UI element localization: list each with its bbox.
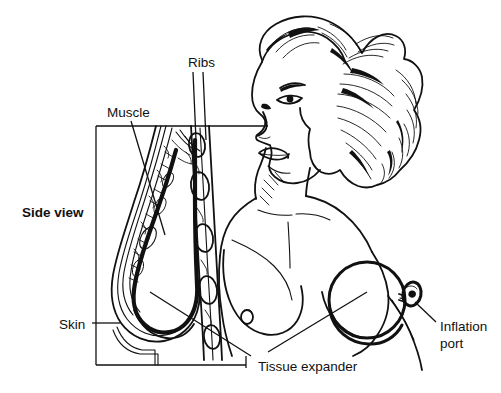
shoulder-left-contour xyxy=(220,198,256,256)
leader-tissue-expander xyxy=(268,292,367,352)
pupil xyxy=(287,96,294,103)
shoulder-right-contour xyxy=(306,196,372,252)
leader-inflation-port xyxy=(415,302,436,322)
label-tissue-expander: Tissue expander xyxy=(258,359,358,374)
leader-ribs-2 xyxy=(203,72,206,140)
skin-outer-contour xyxy=(112,126,200,342)
clavicle-left xyxy=(258,210,292,215)
face-profile xyxy=(252,62,320,183)
clavicle-right xyxy=(296,214,330,220)
eye xyxy=(277,96,302,104)
breast-right-upper-curve xyxy=(232,240,292,300)
leader-ribs-1 xyxy=(193,72,196,140)
medical-illustration-figure: Side view Ribs Muscle Skin Tissue expand… xyxy=(0,0,501,393)
neck-shading xyxy=(260,172,283,205)
front-view-figure xyxy=(219,16,423,370)
rib-oval-2 xyxy=(189,171,211,201)
neck-right xyxy=(306,168,310,196)
hair-strands-top xyxy=(272,24,394,64)
sternum-line xyxy=(288,222,290,268)
label-side-view: Side view xyxy=(22,205,84,220)
label-inflation-port-line1: Inflation xyxy=(440,319,487,334)
hairline xyxy=(262,32,345,62)
illustration-canvas: Side view Ribs Muscle Skin Tissue expand… xyxy=(0,0,501,393)
label-inflation-port-line2: port xyxy=(440,336,464,351)
label-ribs: Ribs xyxy=(188,55,215,70)
leader-muscle xyxy=(131,121,165,235)
side-view-anatomy xyxy=(112,126,222,365)
hair-strands-right xyxy=(337,70,418,184)
breast-mound-contour xyxy=(134,140,198,333)
muscle-cell-dot xyxy=(146,236,149,239)
tissue-expander-assembly xyxy=(322,262,423,344)
inflation-port-center xyxy=(408,291,416,298)
label-muscle: Muscle xyxy=(107,105,150,120)
eye-shadow-accent xyxy=(261,104,271,110)
nostril xyxy=(259,137,270,139)
label-skin: Skin xyxy=(59,317,85,332)
neck-left xyxy=(255,148,266,199)
